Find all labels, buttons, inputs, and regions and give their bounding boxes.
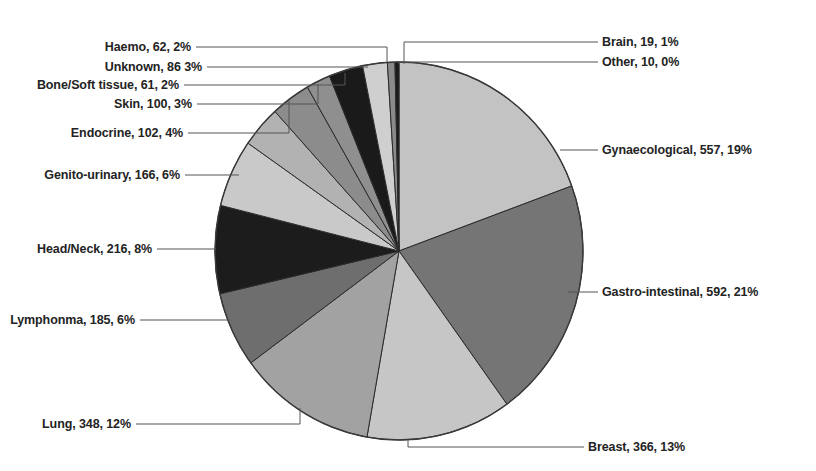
label-breast: Breast, 366, 13% xyxy=(588,441,685,454)
leader-line-brain xyxy=(404,42,598,64)
label-lymphonma: Lymphonma, 185, 6% xyxy=(0,314,135,327)
label-gynaecological: Gynaecological, 557, 19% xyxy=(602,144,752,157)
leader-line-haemo xyxy=(196,47,387,62)
leader-line-lung xyxy=(136,408,300,424)
label-head-neck: Head/Neck, 216, 8% xyxy=(0,243,152,256)
leader-line-other xyxy=(399,62,598,64)
label-haemo: Haemo, 62, 2% xyxy=(0,41,191,54)
leader-line-breast xyxy=(408,440,584,447)
label-gastro-intestinal: Gastro-intestinal, 592, 21% xyxy=(602,286,758,299)
label-brain: Brain, 19, 1% xyxy=(602,36,679,49)
label-lung: Lung, 348, 12% xyxy=(0,418,131,431)
pie-slice-group xyxy=(215,62,583,440)
label-other: Other, 10, 0% xyxy=(602,56,679,69)
pie-chart-figure: Brain, 19, 1% Other, 10, 0% Gynaecologic… xyxy=(0,0,816,471)
label-bone-soft-tissue: Bone/Soft tissue, 61, 2% xyxy=(0,79,179,92)
label-unknown: Unknown, 86 3% xyxy=(0,61,202,74)
label-endocrine: Endocrine, 102, 4% xyxy=(0,127,183,140)
label-genito-urinary: Genito-urinary, 166, 6% xyxy=(0,169,180,182)
label-skin: Skin, 100, 3% xyxy=(0,98,192,111)
